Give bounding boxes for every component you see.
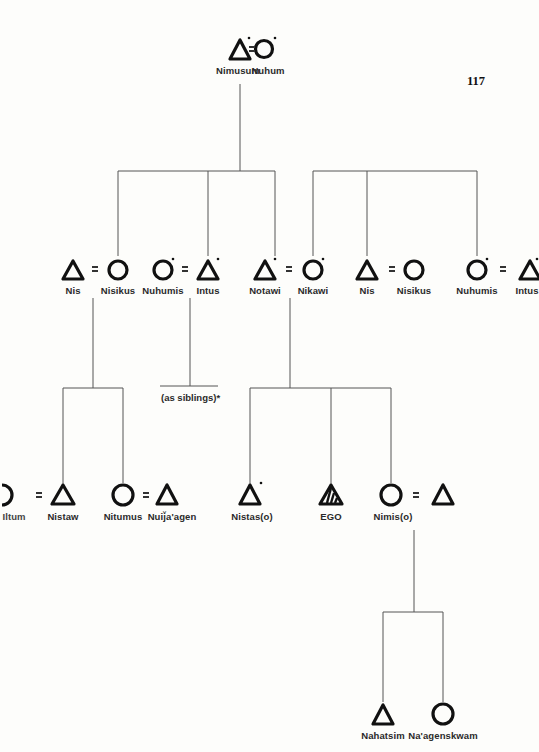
page-number: 117 <box>467 74 485 89</box>
circle-icon <box>256 41 273 58</box>
ego-label: EGO <box>320 511 341 522</box>
dot-markers <box>172 37 539 485</box>
person-label: Na'agenskwam <box>408 730 477 741</box>
equals-sign <box>286 266 292 268</box>
triangle-icon <box>357 261 377 279</box>
circle-icon <box>433 704 453 724</box>
person-label: Nis <box>65 285 80 296</box>
person-label: Nisikus <box>101 285 136 296</box>
person-label: Notawi <box>249 285 281 296</box>
person-label: Nis <box>359 285 374 296</box>
person-label: Nitumus <box>104 511 143 522</box>
person-label: Intus <box>515 285 538 296</box>
person-label: Nistaw <box>47 511 78 522</box>
triangle-icon <box>157 485 177 504</box>
triangle-icon <box>63 261 83 279</box>
equals-sign <box>500 266 506 268</box>
circle-icon <box>304 261 322 279</box>
triangle-icon <box>373 705 393 724</box>
circle-icon <box>113 485 133 505</box>
kinship-diagram <box>0 0 539 752</box>
triangle-icon <box>52 485 74 504</box>
circle-icon <box>2 485 12 505</box>
triangle-icon <box>230 40 250 59</box>
person-label: Nistas(o) <box>231 511 273 522</box>
triangle-icon <box>433 485 453 504</box>
person-label: Nuhumis <box>456 285 497 296</box>
triangle-icon <box>255 261 275 279</box>
circle-icon <box>109 261 127 279</box>
circle-icon <box>381 485 401 505</box>
descent-lines <box>63 84 477 702</box>
person-label: Nimis(o) <box>374 511 413 522</box>
equals-sign <box>389 266 395 268</box>
triangle-icon <box>520 261 539 279</box>
circle-icon <box>154 261 172 279</box>
person-label: Nuij̆a'agen <box>148 511 197 522</box>
person-label: Nuhum <box>251 65 284 76</box>
equals-sign <box>36 492 42 494</box>
equals-sign <box>249 46 255 48</box>
circle-icon <box>468 261 486 279</box>
triangle-icon <box>240 485 260 504</box>
siblings-note: (as siblings)* <box>161 392 220 403</box>
circle-icon <box>405 261 423 279</box>
equals-sign <box>143 492 149 494</box>
person-label: Iltum <box>2 511 25 522</box>
equals-sign <box>413 492 419 494</box>
equals-sign <box>182 266 188 268</box>
equals-sign <box>92 266 98 268</box>
person-label: Nuhumis <box>142 285 183 296</box>
person-label: Intus <box>196 285 219 296</box>
person-label: Nahatsim <box>361 730 405 741</box>
triangle-icon <box>198 261 218 279</box>
person-label: Nikawi <box>298 285 329 296</box>
person-label: Nisikus <box>397 285 432 296</box>
